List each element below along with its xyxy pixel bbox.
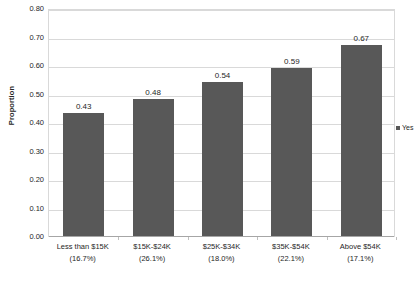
x-axis-category-name: $25K-$34K <box>187 241 256 253</box>
x-axis-category-label: $35K-$54K(22.1%) <box>256 241 325 264</box>
bar-value-label: 0.43 <box>47 102 120 111</box>
y-axis-tick-label: 0.60 <box>4 62 44 70</box>
x-axis-category-name: $35K-$54K <box>256 241 325 253</box>
x-axis-category-name: $15K-$24K <box>117 241 186 253</box>
bar[interactable] <box>271 68 312 236</box>
chart-legend: Yes <box>396 124 413 132</box>
bar-group: 0.59 <box>271 10 312 237</box>
bar[interactable] <box>341 45 382 236</box>
bar-group: 0.54 <box>202 10 243 237</box>
y-axis-tick-label: 0.70 <box>4 34 44 42</box>
y-axis-tick-label: 0.50 <box>4 91 44 99</box>
x-axis-category-label: Above $54K(17.1%) <box>326 241 395 264</box>
y-axis-tick-label: 0.00 <box>4 233 44 241</box>
y-axis-tick-labels: 0.800.700.600.500.400.300.200.100.00 <box>0 0 44 285</box>
x-axis-category-percent: (22.1%) <box>256 253 325 265</box>
bar-group: 0.43 <box>63 10 104 237</box>
x-axis-line <box>49 236 394 237</box>
legend-entry-label: Yes <box>402 124 413 132</box>
bars-layer: 0.430.480.540.590.67 <box>49 10 394 237</box>
x-axis-category-percent: (17.1%) <box>326 253 395 265</box>
y-axis-tick-label: 0.10 <box>4 205 44 213</box>
bar-value-label: 0.54 <box>186 71 259 80</box>
x-axis-category-label: Less than $15K(16.7%) <box>48 241 117 264</box>
y-axis-tick-label: 0.40 <box>4 119 44 127</box>
x-axis-category-percent: (26.1%) <box>117 253 186 265</box>
x-axis-tick <box>396 237 397 240</box>
bar-group: 0.67 <box>341 10 382 237</box>
x-axis-category-percent: (16.7%) <box>48 253 117 265</box>
bar-group: 0.48 <box>133 10 174 237</box>
plot-area: 0.430.480.540.590.67 <box>48 9 395 237</box>
y-axis-tick-label: 0.20 <box>4 176 44 184</box>
legend-swatch-icon <box>396 126 400 130</box>
bar-value-label: 0.67 <box>325 34 398 43</box>
x-axis-tick <box>118 237 119 240</box>
x-axis-tick <box>188 237 189 240</box>
x-axis-tick <box>327 237 328 240</box>
x-axis-category-name: Less than $15K <box>48 241 117 253</box>
x-axis-tick <box>257 237 258 240</box>
y-axis-tick-label: 0.80 <box>4 5 44 13</box>
bar-value-label: 0.48 <box>117 88 190 97</box>
y-axis-tick-label: 0.30 <box>4 148 44 156</box>
x-axis-category-percent: (18.0%) <box>187 253 256 265</box>
bar-chart: Proportion 0.800.700.600.500.400.300.200… <box>0 0 418 285</box>
bar[interactable] <box>202 82 243 236</box>
x-axis-category-name: Above $54K <box>326 241 395 253</box>
bar-value-label: 0.59 <box>255 57 328 66</box>
x-axis-category-label: $15K-$24K(26.1%) <box>117 241 186 264</box>
x-axis-category-label: $25K-$34K(18.0%) <box>187 241 256 264</box>
bar[interactable] <box>133 99 174 236</box>
x-axis-category-labels: Less than $15K(16.7%)$15K-$24K(26.1%)$25… <box>48 241 395 281</box>
bar[interactable] <box>63 113 104 236</box>
